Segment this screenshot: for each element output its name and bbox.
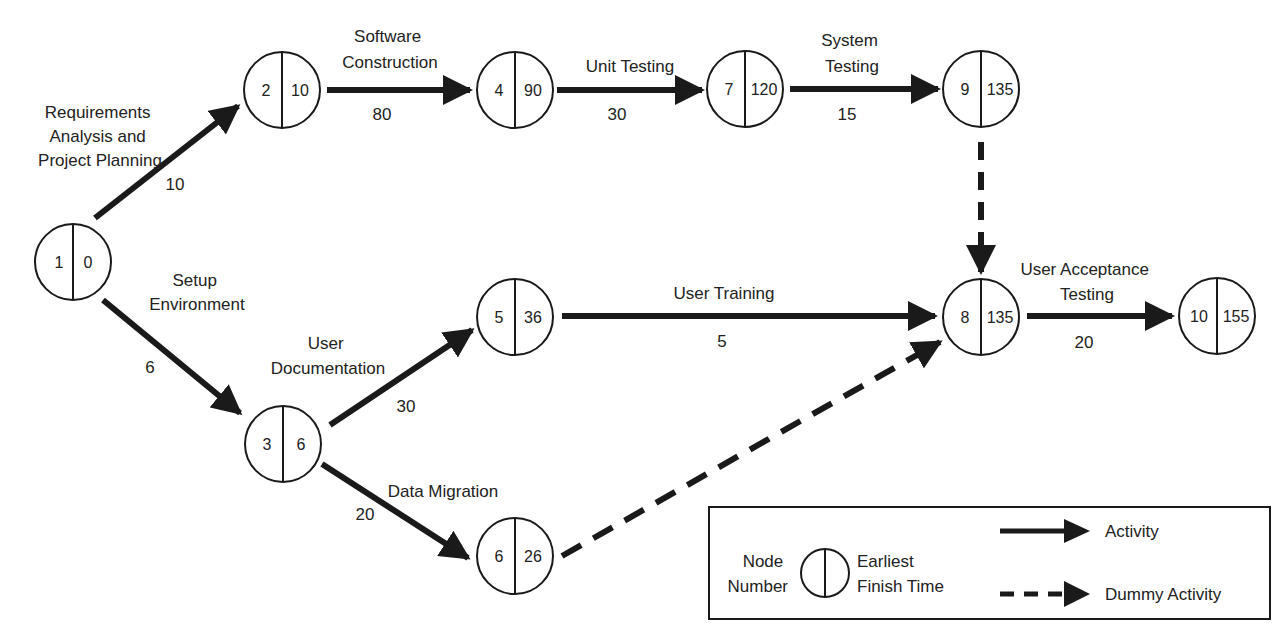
node-number: 4	[495, 82, 504, 99]
node-number: 5	[495, 309, 504, 326]
node-eft: 10	[291, 82, 309, 99]
node-number: 9	[961, 81, 970, 98]
duration-8-10: 20	[1075, 333, 1094, 352]
node-eft: 155	[1223, 308, 1250, 325]
duration-4-7: 30	[608, 105, 627, 124]
label-software-construction: Software Construction	[342, 27, 437, 72]
legend-activity-label: Activity	[1105, 522, 1159, 541]
node-number: 1	[55, 254, 64, 271]
duration-2-4: 80	[373, 105, 392, 124]
node-2: 2 10	[244, 52, 320, 128]
node-eft: 26	[524, 548, 542, 565]
duration-7-9: 15	[838, 105, 857, 124]
duration-1-3: 6	[145, 358, 154, 377]
arrow-1-3	[103, 300, 240, 413]
node-eft: 6	[297, 436, 306, 453]
node-10: 10 155	[1179, 278, 1255, 354]
duration-3-5: 30	[397, 397, 416, 416]
label-data-migration: Data Migration	[388, 482, 499, 501]
label-user-acceptance-testing: User Acceptance Testing	[1020, 260, 1153, 304]
node-number: 3	[263, 436, 272, 453]
label-system-testing: System Testing	[821, 31, 882, 76]
node-number: 8	[961, 309, 970, 326]
arrow-3-6	[322, 464, 468, 558]
legend-dummy-label: Dummy Activity	[1105, 585, 1222, 604]
node-number: 7	[725, 81, 734, 98]
node-5: 5 36	[477, 279, 553, 355]
node-1: 1 0	[35, 224, 111, 300]
label-requirements-analysis: Requirements Analysis and Project Planni…	[38, 103, 162, 170]
label-user-training: User Training	[673, 284, 774, 303]
node-4: 4 90	[477, 52, 553, 128]
node-eft: 135	[987, 309, 1014, 326]
network-diagram: Requirements Analysis and Project Planni…	[0, 0, 1280, 640]
node-eft: 135	[987, 81, 1014, 98]
node-eft: 0	[84, 254, 93, 271]
node-3: 3 6	[245, 406, 321, 482]
node-eft: 90	[524, 82, 542, 99]
legend: Node Number Earliest Finish Time Activit…	[709, 507, 1270, 619]
node-eft: 36	[524, 309, 542, 326]
duration-1-2: 10	[166, 175, 185, 194]
node-6: 6 26	[477, 518, 553, 594]
node-8: 8 135	[943, 279, 1019, 355]
node-7: 7 120	[707, 51, 783, 127]
node-number: 10	[1190, 308, 1208, 325]
node-eft: 120	[751, 81, 778, 98]
node-9: 9 135	[943, 51, 1019, 127]
node-number: 2	[262, 82, 271, 99]
node-number: 6	[495, 548, 504, 565]
label-setup-environment: Setup Environment	[149, 271, 245, 314]
label-user-documentation: User Documentation	[271, 334, 385, 378]
legend-node-icon	[801, 549, 849, 597]
duration-3-6: 20	[356, 505, 375, 524]
label-unit-testing: Unit Testing	[586, 57, 675, 76]
duration-5-8: 5	[717, 332, 726, 351]
